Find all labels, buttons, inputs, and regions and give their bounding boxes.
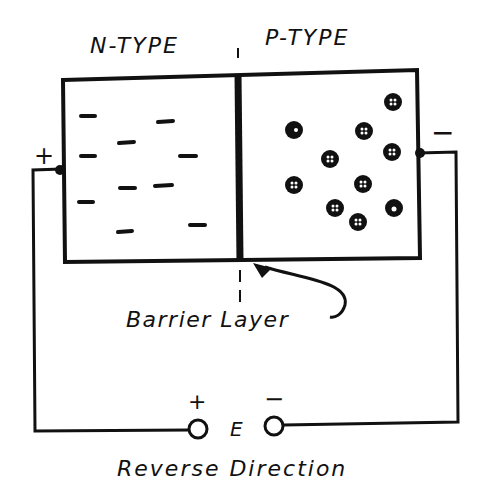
n-type-label: N-TYPE	[90, 33, 179, 58]
p-carriers	[285, 93, 403, 231]
source-plus-sign: +	[188, 389, 206, 414]
source-label: E	[230, 417, 243, 441]
circuit-wire	[33, 152, 458, 431]
right-contact	[415, 148, 425, 158]
n-carriers	[79, 116, 205, 232]
source-minus-sign: −	[264, 385, 284, 413]
p-type-label: P-TYPE	[265, 25, 349, 50]
left-plus-sign: +	[34, 142, 54, 170]
left-contact	[55, 165, 65, 175]
barrier-layer-label: Barrier Layer	[126, 307, 290, 332]
barrier-layer-line	[238, 74, 240, 262]
caption: Reverse Direction	[117, 456, 347, 481]
right-minus-sign: −	[431, 116, 454, 149]
diode-diagram: N-TYPE P-TYPE	[0, 0, 484, 493]
